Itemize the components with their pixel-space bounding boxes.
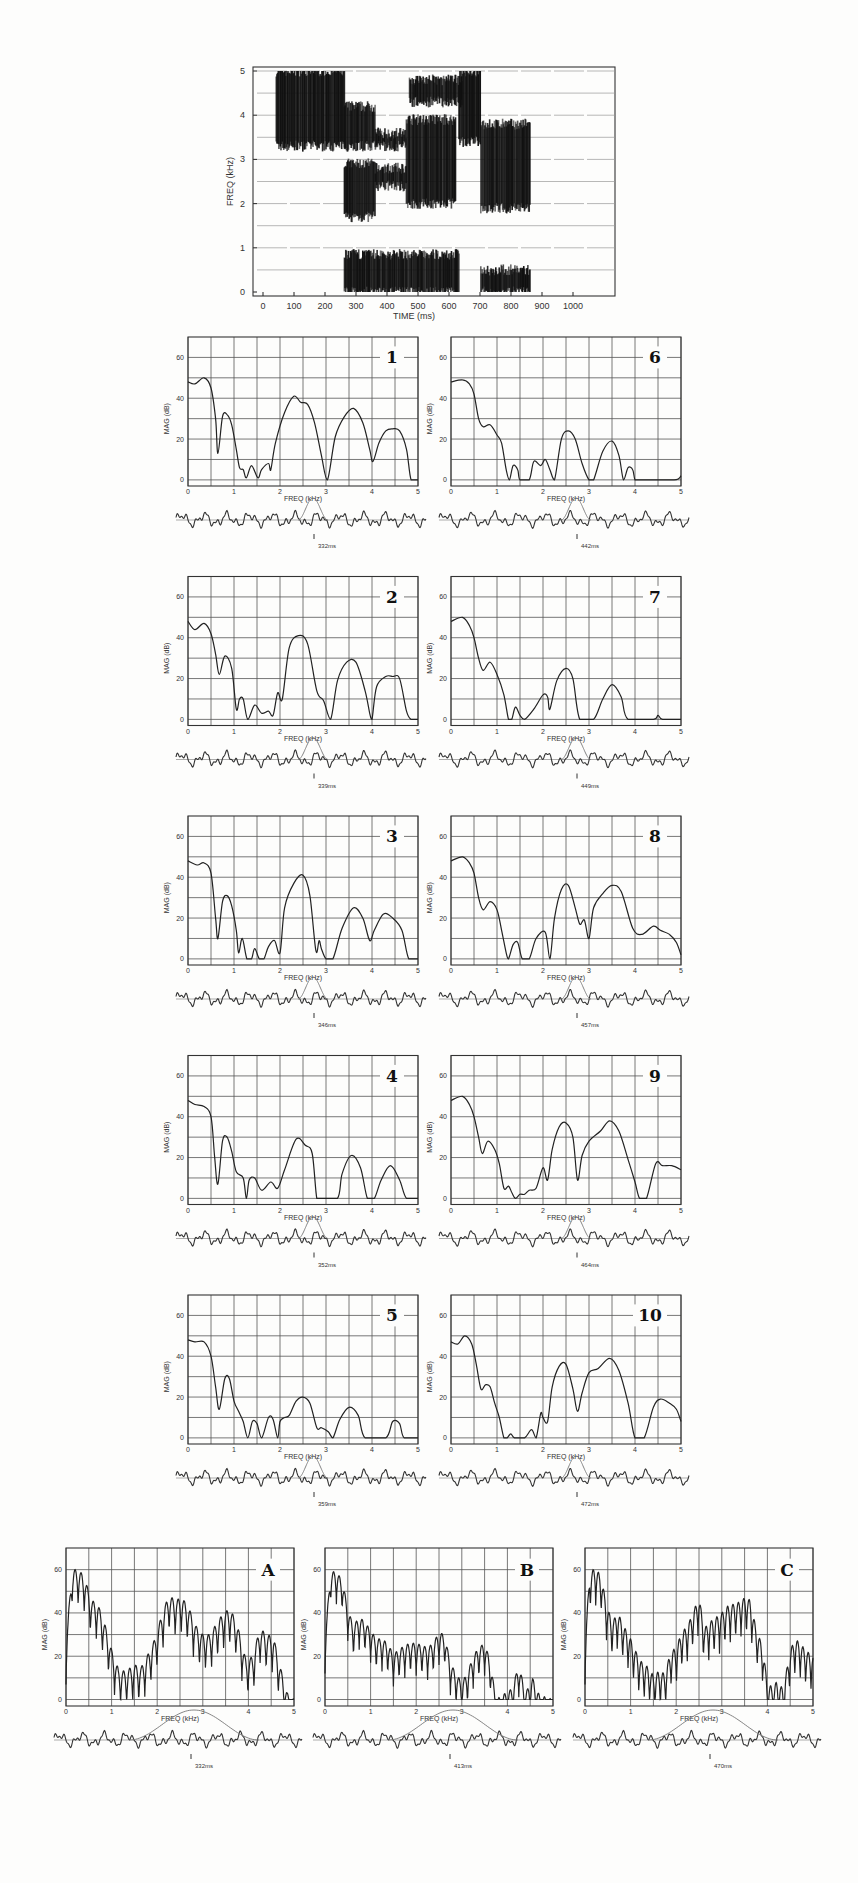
time-label: 457ms [581, 1022, 599, 1028]
y-axis-label: MAG (dB) [163, 643, 171, 674]
spectrum-panel-B: B0204060012345FREQ (kHz)MAG (dB)413ms [300, 1548, 561, 1769]
time-label: 413ms [454, 1763, 472, 1769]
y-axis-label: MAG (dB) [426, 882, 434, 913]
spectrogram-region [344, 249, 460, 292]
xtick-label: 2 [155, 1708, 159, 1715]
spectrogram-region [375, 163, 407, 192]
xtick-label: 3 [324, 1446, 328, 1453]
spectrogram-xtick-label: 0 [260, 301, 265, 311]
ytick-label: 40 [439, 1113, 447, 1120]
time-label: 359ms [318, 1501, 336, 1507]
time-label: 449ms [581, 783, 599, 789]
xtick-label: 4 [633, 1207, 637, 1214]
xtick-label: 2 [278, 1446, 282, 1453]
ytick-label: 40 [439, 634, 447, 641]
ytick-label: 0 [180, 716, 184, 723]
xtick-label: 0 [449, 1446, 453, 1453]
spectrogram-region [480, 264, 531, 292]
figure-canvas: 01234501002003004005006007008009001000TI… [0, 0, 858, 1883]
y-axis-label: MAG (dB) [163, 1361, 171, 1392]
xtick-label: 4 [505, 1708, 509, 1715]
spectrum-panel-2: 20204060012345FREQ (kHz)MAG (dB)339ms [163, 577, 426, 789]
xtick-label: 4 [370, 1207, 374, 1214]
xtick-label: 2 [278, 488, 282, 495]
ytick-label: 60 [176, 593, 184, 600]
y-axis-label: MAG (dB) [163, 882, 171, 913]
xtick-label: 2 [541, 728, 545, 735]
spectrogram-xtick-label: 400 [379, 301, 394, 311]
spectrogram-ytick-label: 3 [240, 154, 245, 164]
spectrum-panel-1: 10204060012345FREQ (kHz)MAG (dB)332ms [163, 337, 426, 549]
ytick-label: 40 [176, 1353, 184, 1360]
spectrogram-striation [529, 122, 531, 204]
spectrogram-striation [529, 269, 531, 292]
xtick-label: 4 [370, 967, 374, 974]
spectrogram-xtick-label: 1000 [563, 301, 583, 311]
waveform [176, 510, 426, 528]
ytick-label: 0 [577, 1696, 581, 1703]
spectrogram-xtick-label: 500 [410, 301, 425, 311]
ytick-label: 60 [439, 833, 447, 840]
spectrum-panel-C: C0204060012345FREQ (kHz)MAG (dB)470ms [560, 1548, 821, 1769]
y-axis-label: MAG (dB) [426, 403, 434, 434]
xtick-label: 4 [370, 728, 374, 735]
spectrogram-region [458, 71, 481, 147]
spectrogram-xlabel: TIME (ms) [393, 311, 435, 321]
panel-label: 1 [386, 347, 398, 367]
y-axis-label: MAG (dB) [41, 1619, 49, 1650]
panel-label: 5 [386, 1305, 398, 1325]
xtick-label: 0 [583, 1708, 587, 1715]
ytick-label: 40 [176, 1113, 184, 1120]
waveform [176, 1468, 426, 1486]
waveform [176, 989, 426, 1007]
ytick-label: 40 [54, 1609, 62, 1616]
xtick-label: 1 [232, 728, 236, 735]
panel-label: 6 [649, 347, 661, 367]
xtick-label: 0 [64, 1708, 68, 1715]
xtick-label: 5 [416, 967, 420, 974]
ytick-label: 20 [439, 915, 447, 922]
panel-label: 4 [386, 1066, 398, 1086]
waveform [176, 1229, 426, 1247]
ytick-label: 60 [54, 1566, 62, 1573]
panel-label: 8 [649, 826, 661, 846]
ytick-label: 40 [176, 634, 184, 641]
xtick-label: 4 [370, 488, 374, 495]
xtick-label: 1 [495, 488, 499, 495]
waveform [439, 990, 689, 1008]
xtick-label: 5 [551, 1708, 555, 1715]
xtick-label: 5 [416, 1446, 420, 1453]
ytick-label: 40 [176, 395, 184, 402]
ytick-label: 0 [443, 1434, 447, 1441]
xtick-label: 3 [587, 728, 591, 735]
spectrum-panel-4: 40204060012345FREQ (kHz)MAG (dB)352ms [163, 1056, 426, 1268]
panel-label: 7 [649, 587, 661, 607]
xtick-label: 4 [633, 967, 637, 974]
ytick-label: 20 [176, 1394, 184, 1401]
ytick-label: 60 [439, 354, 447, 361]
ytick-label: 40 [439, 874, 447, 881]
spectrogram-region [275, 71, 345, 152]
xtick-label: 1 [495, 1446, 499, 1453]
spectrogram-striation [458, 254, 460, 292]
spectrum-panel-9: 90204060012345FREQ (kHz)MAG (dB)464ms [426, 1056, 689, 1268]
xtick-label: 1 [232, 488, 236, 495]
ytick-label: 60 [176, 833, 184, 840]
x-axis-label: FREQ (kHz) [284, 1453, 322, 1461]
spectrogram-region [375, 128, 407, 152]
time-label: 339ms [318, 783, 336, 789]
xtick-label: 0 [449, 1207, 453, 1214]
xtick-label: 1 [110, 1708, 114, 1715]
panel-label: 2 [386, 587, 398, 607]
spectrum-panel-A: A0204060012345FREQ (kHz)MAG (dB)332ms [41, 1548, 302, 1769]
xtick-label: 0 [186, 1207, 190, 1214]
time-label: 472ms [581, 1501, 599, 1507]
spectrogram-xtick-label: 700 [472, 301, 487, 311]
xtick-label: 1 [629, 1708, 633, 1715]
time-label: 464ms [581, 1262, 599, 1268]
ytick-label: 20 [439, 436, 447, 443]
ytick-label: 0 [443, 716, 447, 723]
xtick-label: 5 [679, 728, 683, 735]
ytick-label: 40 [439, 395, 447, 402]
xtick-label: 5 [679, 1207, 683, 1214]
